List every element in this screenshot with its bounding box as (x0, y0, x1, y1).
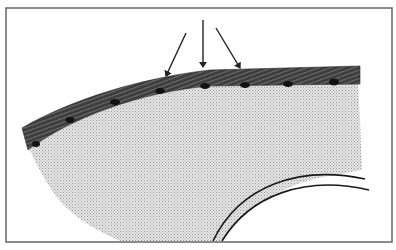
particle (200, 83, 210, 89)
particle (32, 141, 40, 147)
particle (155, 88, 165, 94)
particle (240, 82, 250, 88)
particle (66, 117, 75, 123)
particle (110, 99, 120, 105)
particle (329, 79, 339, 86)
particle (283, 81, 293, 87)
diagram-canvas (0, 0, 396, 250)
